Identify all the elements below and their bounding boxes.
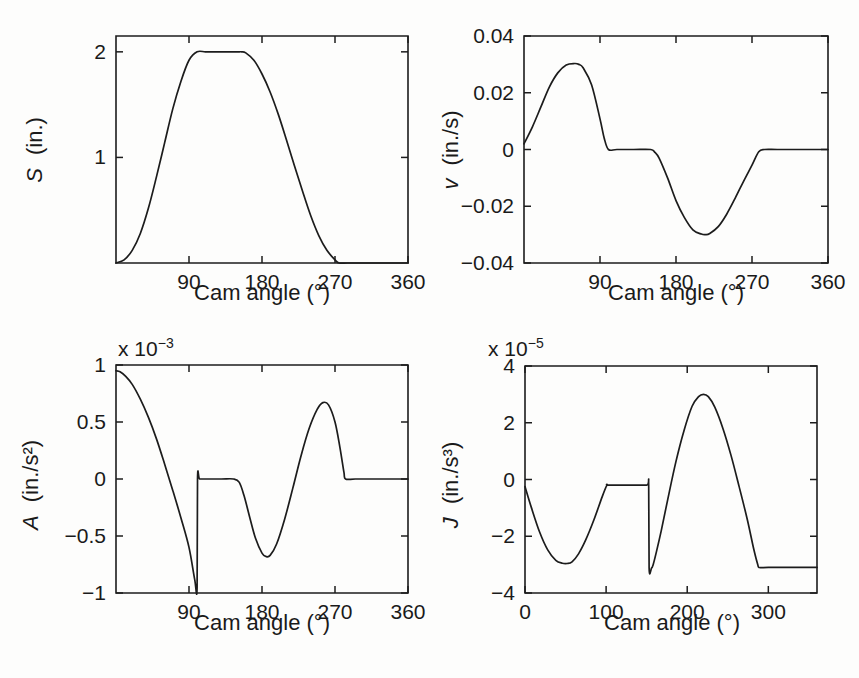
y-tick-labels: 12 <box>94 40 106 169</box>
panel-velocity: 90180270360 −0.04−0.0200.020.04 Cam angl… <box>430 0 859 340</box>
y-axis-label-symbol: A <box>18 515 43 532</box>
y-tick-label: −4 <box>491 581 515 604</box>
exponent-power: −5 <box>528 335 544 351</box>
y-tick-labels: −0.04−0.0200.020.04 <box>461 24 514 274</box>
x-axis-label-text: Cam angle (°) <box>608 280 744 305</box>
y-tick-label: −1 <box>82 581 106 604</box>
y-tick-label: 2 <box>503 411 515 434</box>
y-axis-exponent-label: x 10−3 <box>118 335 174 360</box>
panel-acceleration-svg: 90180270360 −1−0.500.51 x 10−3 Cam angle… <box>0 330 430 678</box>
x-axis-label-text: Cam angle (°) <box>194 610 330 635</box>
tick-marks <box>525 366 817 593</box>
y-axis-exponent-label: x 10−5 <box>488 335 544 360</box>
y-axis-label-units: (in./s) <box>438 110 463 165</box>
y-tick-label: 0.02 <box>473 81 514 104</box>
axis-box <box>525 366 817 593</box>
x-axis-label: Cam angle (°) <box>194 280 330 305</box>
y-tick-label: −0.5 <box>65 524 106 547</box>
svg-text:J (in./s³): J (in./s³) <box>438 442 463 529</box>
y-axis-label: A (in./s²) <box>18 440 43 532</box>
tick-marks <box>116 36 408 263</box>
y-tick-label: −0.02 <box>461 194 514 217</box>
y-axis-label-units: (in.) <box>22 117 47 155</box>
panel-jerk-svg: 0100200300 −4−2024 x 10−5 Cam angle (°) … <box>430 330 859 678</box>
panel-displacement-svg: 90180270360 12 Cam angle (°) S (in.) <box>0 0 430 340</box>
exponent-power: −3 <box>158 335 174 351</box>
panel-displacement-plot-area <box>116 36 408 263</box>
panel-acceleration-plot-area <box>116 365 408 594</box>
series-line-s <box>116 51 408 263</box>
y-tick-labels: −4−2024 <box>491 354 515 604</box>
x-tick-label: 300 <box>751 600 786 623</box>
x-axis-label: Cam angle (°) <box>604 610 740 635</box>
y-tick-label: 0.04 <box>473 24 514 47</box>
panel-displacement: 90180270360 12 Cam angle (°) S (in.) <box>0 0 430 340</box>
y-tick-label: −0.04 <box>461 251 514 274</box>
x-axis-label-text: Cam angle (°) <box>604 610 740 635</box>
axis-box <box>116 36 408 263</box>
y-axis-label: J (in./s³) <box>438 442 463 529</box>
series-line-a <box>116 371 408 595</box>
y-axis-label-symbol: J <box>438 516 463 529</box>
y-axis-label: S (in.) <box>22 117 47 183</box>
x-tick-label: 0 <box>519 600 531 623</box>
y-axis-label-units: (in./s²) <box>18 440 43 502</box>
y-axis-label-symbol: v <box>438 177 463 190</box>
x-tick-label: 360 <box>810 270 845 293</box>
x-tick-label: 360 <box>390 270 425 293</box>
y-tick-label: 1 <box>94 353 106 376</box>
y-axis-label-symbol: S <box>22 168 47 183</box>
svg-text:v (in./s): v (in./s) <box>438 110 463 189</box>
y-tick-labels: −1−0.500.51 <box>65 353 106 604</box>
x-axis-label-text: Cam angle (°) <box>194 280 330 305</box>
series-line-j <box>525 394 817 573</box>
y-tick-label: 1 <box>94 145 106 168</box>
y-tick-label: 0 <box>502 138 514 161</box>
cam-motion-figure: 90180270360 12 Cam angle (°) S (in.) 901… <box>0 0 859 678</box>
svg-text:A (in./s²): A (in./s²) <box>18 440 43 532</box>
svg-text:S (in.): S (in.) <box>22 117 47 183</box>
exponent-mantissa: x 10 <box>488 337 528 360</box>
x-axis-label: Cam angle (°) <box>194 610 330 635</box>
x-axis-label: Cam angle (°) <box>608 280 744 305</box>
panel-acceleration: 90180270360 −1−0.500.51 x 10−3 Cam angle… <box>0 330 430 678</box>
y-tick-label: 0 <box>503 468 515 491</box>
panel-velocity-svg: 90180270360 −0.04−0.0200.020.04 Cam angl… <box>430 0 859 340</box>
panel-velocity-plot-area <box>524 36 828 263</box>
panel-jerk-plot-area <box>525 366 817 593</box>
y-tick-label: 0.5 <box>77 410 106 433</box>
panel-jerk: 0100200300 −4−2024 x 10−5 Cam angle (°) … <box>430 330 859 678</box>
x-tick-label: 360 <box>390 600 425 623</box>
y-tick-label: −2 <box>491 524 515 547</box>
y-axis-label: v (in./s) <box>438 110 463 189</box>
y-axis-label-units: (in./s³) <box>438 442 463 504</box>
y-tick-label: 2 <box>94 40 106 63</box>
series-line-v <box>524 64 828 235</box>
exponent-mantissa: x 10 <box>118 337 158 360</box>
y-tick-label: 0 <box>94 467 106 490</box>
